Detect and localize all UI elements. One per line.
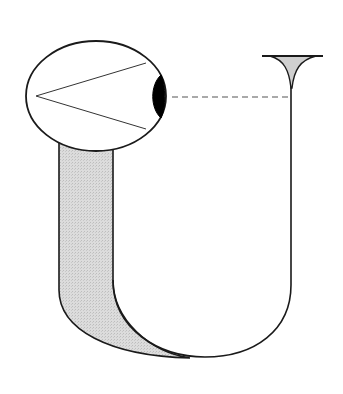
tube-shaded-band [59,140,190,358]
eye [26,41,166,151]
funnel [270,56,316,88]
diagram-canvas [0,0,343,394]
